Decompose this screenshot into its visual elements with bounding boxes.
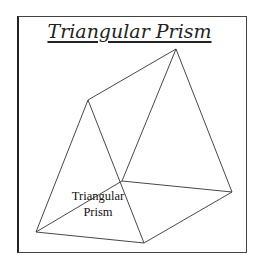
top-ridge-edge [88,49,176,100]
triangular-prism-drawing [0,0,259,268]
back-right-edge [176,49,232,192]
prism-label: Triangular Prism [58,188,138,220]
back-bottom-edge [122,181,232,192]
back-left-edge [122,49,176,181]
label-line-2: Prism [58,204,138,220]
label-line-1: Triangular [58,188,138,204]
front-right-edge [88,100,144,243]
front-bottom-edge [36,232,144,243]
right-base-edge [144,192,232,243]
